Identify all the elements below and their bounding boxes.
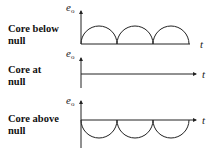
panel1-plot: eo t	[66, 1, 204, 50]
panel2-x-label: t	[202, 68, 206, 80]
panel3-x-label: t	[202, 114, 206, 126]
waveform-diagram: eo t eo t eo t	[0, 0, 213, 156]
panel1-waveform	[81, 26, 189, 44]
panel1-y-label: eo	[66, 1, 75, 15]
panel2-plot: eo t	[66, 47, 206, 88]
panel3-y-label: eo	[66, 94, 75, 108]
panel3-plot: eo t	[66, 94, 206, 148]
panel1-x-label: t	[200, 38, 204, 50]
panel2-y-label: eo	[66, 47, 75, 61]
panel3-waveform	[81, 120, 189, 138]
